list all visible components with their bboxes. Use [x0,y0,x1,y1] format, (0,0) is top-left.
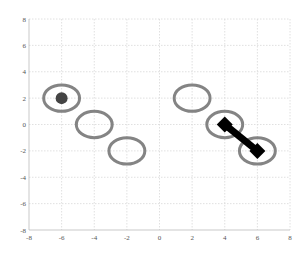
y-tick-label: -8 [20,227,26,235]
x-tick-labels: -8-6-4-202468 [26,234,292,242]
x-tick-label: 0 [158,234,162,242]
x-tick-label: -2 [124,234,130,242]
y-tick-label: 0 [23,121,27,129]
scatter-chart: -8-6-4-202468 86420-2-4-6-8 [0,0,308,255]
x-tick-label: 2 [190,234,194,242]
x-tick-label: -8 [26,234,32,242]
filled-dot-markers [56,92,68,104]
x-tick-label: 4 [223,234,227,242]
y-tick-labels: 86420-2-4-6-8 [20,16,26,235]
grid-lines [29,19,290,230]
y-tick-label: 8 [23,16,27,24]
y-tick-label: -6 [20,200,26,208]
y-tick-label: 6 [23,42,27,50]
x-tick-label: 8 [288,234,292,242]
x-tick-label: 6 [256,234,260,242]
y-tick-label: -2 [20,147,26,155]
x-tick-label: -6 [59,234,65,242]
y-tick-label: 2 [23,95,27,103]
filled-dot-marker [56,92,68,104]
y-tick-label: -4 [20,174,26,182]
y-tick-label: 4 [23,68,27,76]
x-tick-label: -4 [91,234,97,242]
